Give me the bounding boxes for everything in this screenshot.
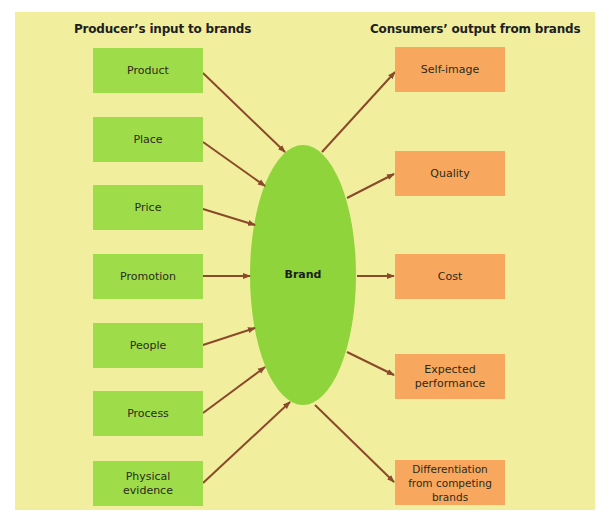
output-box-cost: Cost [395, 254, 505, 299]
brand-label: Brand [253, 268, 353, 281]
input-box-process: Process [93, 391, 203, 436]
input-box-people: People [93, 323, 203, 368]
input-box-place: Place [93, 117, 203, 162]
arrow-product [203, 73, 285, 152]
output-box-differentiation: Differentiation from competing brands [395, 460, 505, 505]
output-box-quality: Quality [395, 151, 505, 196]
arrows-layer [0, 0, 610, 531]
output-box-self-image: Self-image [395, 47, 505, 92]
input-box-physical-evidence: Physical evidence [93, 461, 203, 506]
input-box-price: Price [93, 185, 203, 230]
input-box-promotion: Promotion [93, 254, 203, 299]
output-box-expected-performance: Expected performance [395, 354, 505, 399]
input-box-product: Product [93, 48, 203, 93]
